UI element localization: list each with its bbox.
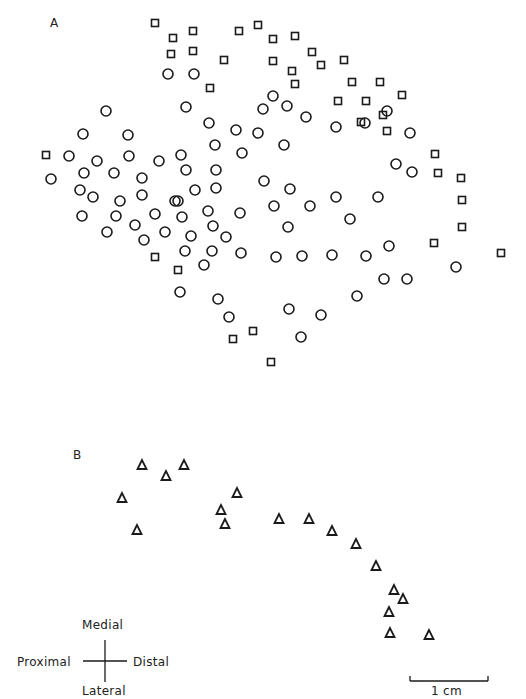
square-marker-icon xyxy=(498,250,505,257)
square-marker-icon xyxy=(435,170,442,177)
triangle-marker-icon xyxy=(399,594,408,603)
circle-marker-icon xyxy=(75,185,85,195)
circle-marker-icon xyxy=(79,168,89,178)
circle-marker-icon xyxy=(210,140,220,150)
circle-marker-icon xyxy=(109,168,119,178)
circle-marker-icon xyxy=(352,291,362,301)
triangle-marker-icon xyxy=(275,514,284,523)
circle-marker-icon xyxy=(391,159,401,169)
circle-marker-icon xyxy=(207,246,217,256)
square-marker-icon xyxy=(341,57,348,64)
square-marker-icon xyxy=(289,68,296,75)
square-marker-icon xyxy=(152,20,159,27)
circle-marker-icon xyxy=(177,212,187,222)
square-marker-icon xyxy=(431,240,438,247)
square-marker-icon xyxy=(459,197,466,204)
square-marker-icon xyxy=(458,175,465,182)
scale-bar-label: 1 cm xyxy=(431,684,462,698)
square-marker-icon xyxy=(270,36,277,43)
circle-marker-icon xyxy=(284,304,294,314)
circle-marker-icon xyxy=(123,130,133,140)
square-marker-icon xyxy=(230,336,237,343)
circle-marker-icon xyxy=(361,251,371,261)
circle-marker-icon xyxy=(402,274,412,284)
triangle-marker-icon xyxy=(385,607,394,616)
square-marker-icon xyxy=(363,98,370,105)
circle-marker-icon xyxy=(189,69,199,79)
medial-label: Medial xyxy=(82,618,123,632)
circle-marker-icon xyxy=(137,190,147,200)
circle-marker-icon xyxy=(345,214,355,224)
triangle-marker-icon xyxy=(138,460,147,469)
circle-marker-icon xyxy=(190,185,200,195)
circle-marker-icon xyxy=(253,128,263,138)
circle-marker-icon xyxy=(331,122,341,132)
circle-marker-icon xyxy=(301,112,311,122)
circle-marker-icon xyxy=(405,128,415,138)
square-marker-icon xyxy=(221,57,228,64)
square-marker-icon xyxy=(399,92,406,99)
circle-marker-icon xyxy=(176,150,186,160)
square-marker-icon xyxy=(384,128,391,135)
circle-marker-icon xyxy=(211,165,221,175)
circle-marker-icon xyxy=(231,125,241,135)
scale-bar xyxy=(410,676,488,681)
circle-marker-icon xyxy=(64,151,74,161)
circle-marker-icon xyxy=(285,184,295,194)
square-marker-icon xyxy=(236,28,243,35)
square-marker-icon xyxy=(432,151,439,158)
circle-marker-icon xyxy=(175,287,185,297)
circle-marker-icon xyxy=(305,201,315,211)
triangle-marker-icon xyxy=(180,460,189,469)
triangle-marker-icon xyxy=(328,526,337,535)
lateral-label: Lateral xyxy=(82,684,126,698)
circle-marker-icon xyxy=(186,231,196,241)
circle-marker-icon xyxy=(221,232,231,242)
circle-marker-icon xyxy=(124,151,134,161)
square-marker-icon xyxy=(190,28,197,35)
triangle-marker-icon xyxy=(425,630,434,639)
circle-marker-icon xyxy=(163,69,173,79)
circle-marker-icon xyxy=(180,246,190,256)
scatter-plot xyxy=(0,0,526,699)
square-marker-icon xyxy=(190,48,197,55)
circle-marker-icon xyxy=(258,104,268,114)
proximal-label: Proximal xyxy=(17,655,71,669)
triangle-marker-icon xyxy=(162,471,171,480)
circle-marker-icon xyxy=(111,211,121,221)
square-marker-icon xyxy=(335,98,342,105)
circle-marker-icon xyxy=(78,129,88,139)
square-marker-icon xyxy=(292,81,299,88)
circle-marker-icon xyxy=(282,101,292,111)
circle-marker-icon xyxy=(181,102,191,112)
circle-marker-icon xyxy=(92,156,102,166)
circle-marker-icon xyxy=(154,156,164,166)
circle-marker-icon xyxy=(115,196,125,206)
circle-marker-icon xyxy=(137,173,147,183)
circle-marker-icon xyxy=(279,140,289,150)
triangle-marker-icon xyxy=(118,493,127,502)
circle-marker-icon xyxy=(268,91,278,101)
square-marker-icon xyxy=(170,35,177,42)
figure: A B Medial Proximal Distal Lateral 1 cm xyxy=(0,0,526,699)
circle-marker-icon xyxy=(331,192,341,202)
square-marker-icon xyxy=(318,62,325,69)
circle-marker-icon xyxy=(150,209,160,219)
triangle-marker-icon xyxy=(221,519,230,528)
square-marker-icon xyxy=(292,33,299,40)
circle-marker-icon xyxy=(160,227,170,237)
square-marker-icon xyxy=(377,79,384,86)
square-marker-icon xyxy=(175,267,182,274)
circle-marker-icon xyxy=(88,192,98,202)
square-marker-icon xyxy=(152,254,159,261)
square-marker-icon xyxy=(459,224,466,231)
circle-marker-icon xyxy=(199,260,209,270)
circle-marker-icon xyxy=(213,294,223,304)
circle-marker-icon xyxy=(296,332,306,342)
square-marker-icon xyxy=(207,85,214,92)
circle-marker-icon xyxy=(77,211,87,221)
circle-marker-icon xyxy=(379,274,389,284)
circle-marker-icon xyxy=(384,241,394,251)
circle-marker-icon xyxy=(451,262,461,272)
circle-marker-icon xyxy=(237,148,247,158)
